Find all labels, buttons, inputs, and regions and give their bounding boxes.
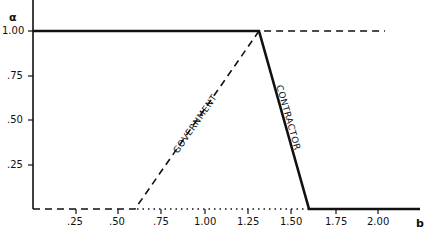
- x-tick-label: 1.25: [237, 217, 259, 227]
- contractor-curve: [33, 31, 420, 209]
- x-tick-label: 1.00: [194, 217, 216, 227]
- government-curve: [33, 31, 385, 209]
- x-tick-label: 1.75: [325, 217, 347, 227]
- x-tick-label: .25: [67, 217, 83, 227]
- x-axis-label: b: [416, 218, 424, 229]
- x-tick-label: 2.00: [367, 217, 389, 227]
- chart-plot: [0, 0, 432, 237]
- y-tick-label: .50: [7, 115, 23, 125]
- y-tick-label: 1.00: [2, 26, 24, 36]
- y-tick-label: .25: [7, 160, 23, 170]
- x-tick-label: 1.50: [280, 217, 302, 227]
- x-tick-label: .50: [109, 217, 125, 227]
- y-tick-label: .75: [7, 71, 23, 81]
- y-axis-label: α: [9, 12, 17, 23]
- x-tick-label: .75: [153, 217, 169, 227]
